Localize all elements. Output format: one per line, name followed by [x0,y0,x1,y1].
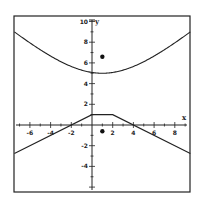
y-tick-label: 4 [84,80,88,87]
plot-frame [14,16,190,192]
y-tick-label: 8 [84,38,88,45]
x-axis-label: x [182,113,187,122]
x-tick-label: 4 [131,129,135,136]
y-tick-label: -4 [81,162,88,169]
x-tick-label: -2 [68,129,75,136]
x-tick-label: 2 [111,129,115,136]
x-tick-label: -6 [27,129,34,136]
upper-curve [14,32,190,73]
x-tick-label: 8 [173,129,177,136]
y-axis-label: y [94,17,100,26]
data-point [100,54,104,58]
data-point [100,129,104,133]
y-tick-label: 2 [84,100,88,107]
y-tick-label: 10 [80,18,88,25]
y-tick-label: -2 [81,142,88,149]
chart: -6-4-22468108642-2-4 x y [0,0,200,200]
y-tick-label: 6 [84,59,88,66]
data-series [14,32,190,154]
axes: -6-4-22468108642-2-4 [16,18,187,191]
lower-piecewise-line [14,115,190,154]
